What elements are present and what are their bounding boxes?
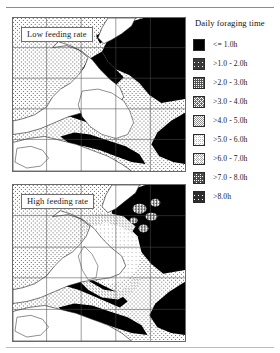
legend-item-label: >7.0 - 8.0h (213, 173, 248, 182)
map-panel-low-feeding-rate[interactable]: Low feeding rate (12, 17, 186, 172)
legend-item-label: >2.0 - 3.0h (213, 78, 248, 87)
legend-item[interactable]: >1.0 - 2.0h (193, 54, 278, 73)
map-panel-high-feeding-rate[interactable]: High feeding rate (12, 184, 186, 342)
legend-swatch-icon (193, 191, 205, 203)
legend-item[interactable]: >8.0h (193, 187, 278, 206)
legend-item[interactable]: >2.0 - 3.0h (193, 73, 278, 92)
bottom-divider-rule (6, 347, 274, 348)
legend-item-label: >4.0 - 5.0h (213, 116, 248, 125)
legend-swatch-icon (193, 39, 205, 51)
legend-swatch-icon (193, 134, 205, 146)
legend-item-label: <= 1.0h (213, 40, 237, 49)
legend: Daily foraging time <= 1.0h >1.0 - 2.0h … (193, 18, 278, 206)
legend-item[interactable]: <= 1.0h (193, 35, 278, 54)
legend-swatch-icon (193, 58, 205, 70)
panel-label-low: Low feeding rate (21, 27, 93, 42)
legend-swatch-icon (193, 115, 205, 127)
legend-item[interactable]: >3.0 - 4.0h (193, 92, 278, 111)
panel-label-high: High feeding rate (21, 194, 94, 209)
legend-item[interactable]: >6.0 - 7.0h (193, 149, 278, 168)
figure-root: Low feeding rate (0, 0, 280, 353)
legend-item[interactable]: >7.0 - 8.0h (193, 168, 278, 187)
legend-item-label: >6.0 - 7.0h (213, 154, 248, 163)
legend-item-label: >8.0h (213, 192, 231, 201)
legend-swatch-icon (193, 153, 205, 165)
legend-item[interactable]: >5.0 - 6.0h (193, 130, 278, 149)
legend-item-label: >5.0 - 6.0h (213, 135, 248, 144)
legend-swatch-icon (193, 172, 205, 184)
legend-item-label: >3.0 - 4.0h (213, 97, 248, 106)
legend-title: Daily foraging time (195, 18, 278, 29)
legend-swatch-icon (193, 77, 205, 89)
legend-swatch-icon (193, 96, 205, 108)
legend-item[interactable]: >4.0 - 5.0h (193, 111, 278, 130)
top-divider-rule (6, 7, 274, 8)
legend-item-label: >1.0 - 2.0h (213, 59, 248, 68)
